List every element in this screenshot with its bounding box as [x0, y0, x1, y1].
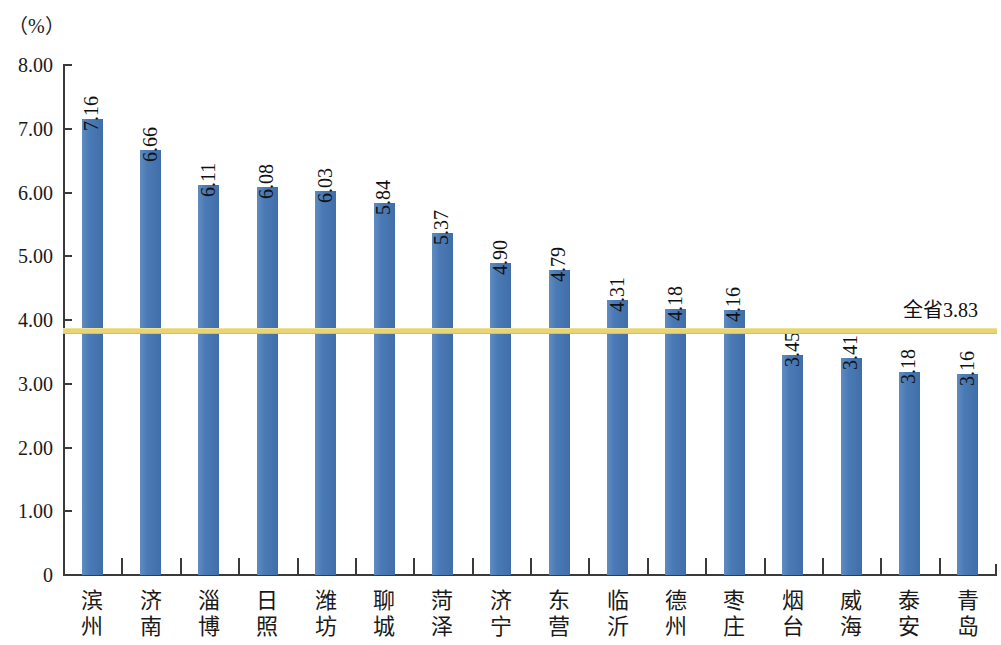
y-axis-tick — [63, 510, 72, 512]
category-label: 菏泽 — [429, 588, 455, 640]
category-label-char: 济 — [138, 588, 164, 614]
category-label-char: 坊 — [313, 614, 339, 640]
category-label-char: 博 — [196, 614, 222, 640]
x-axis-tick — [121, 558, 123, 575]
bar-value-label: 3.16 — [957, 351, 977, 386]
bar — [490, 263, 511, 575]
y-axis-tick-label: 2.00 — [0, 438, 53, 458]
y-axis-tick-label: 3.00 — [0, 374, 53, 394]
bar — [549, 270, 570, 575]
average-reference-label: 全省3.83 — [903, 300, 978, 320]
y-axis-tick-label: 8.00 — [0, 55, 53, 75]
y-axis-tick — [63, 128, 72, 130]
category-label: 临沂 — [605, 588, 631, 640]
category-label: 枣庄 — [721, 588, 747, 640]
category-label-char: 淄 — [196, 588, 222, 614]
category-label-char: 济 — [488, 588, 514, 614]
category-label: 潍坊 — [313, 588, 339, 640]
category-label-char: 安 — [896, 614, 922, 640]
category-label-char: 泰 — [896, 588, 922, 614]
bar-value-label: 6.03 — [315, 168, 335, 203]
x-axis-tick — [705, 558, 707, 575]
bar-value-label: 6.08 — [256, 164, 276, 199]
x-axis-tick — [880, 558, 882, 575]
category-label-char: 烟 — [780, 588, 806, 614]
bar — [315, 191, 336, 575]
category-label: 泰安 — [896, 588, 922, 640]
x-axis-tick — [530, 558, 532, 575]
category-label: 济宁 — [488, 588, 514, 640]
y-axis-tick — [63, 319, 72, 321]
category-label: 聊城 — [371, 588, 397, 640]
y-axis-tick-label: 7.00 — [0, 119, 53, 139]
unit-label: （%） — [8, 16, 65, 36]
category-label: 东营 — [546, 588, 572, 640]
average-reference-line — [63, 328, 997, 334]
category-label-char: 州 — [663, 614, 689, 640]
bar — [957, 374, 978, 575]
category-label-char: 德 — [663, 588, 689, 614]
category-label-char: 岛 — [955, 614, 981, 640]
bar — [432, 233, 453, 575]
bar — [665, 309, 686, 575]
y-axis-tick-label: 4.00 — [0, 310, 53, 330]
bar-value-label: 3.41 — [840, 335, 860, 370]
category-label-char: 泽 — [429, 614, 455, 640]
bar-value-label: 5.84 — [373, 180, 393, 215]
y-axis-tick-label: 1.00 — [0, 501, 53, 521]
bar-value-label: 3.45 — [782, 332, 802, 367]
x-axis-tick — [764, 558, 766, 575]
category-label-char: 海 — [838, 614, 864, 640]
category-label-char: 青 — [955, 588, 981, 614]
category-label-char: 庄 — [721, 614, 747, 640]
bar-value-label: 6.11 — [198, 163, 218, 197]
bar — [841, 358, 862, 575]
bar — [374, 203, 395, 575]
bar-value-label: 4.31 — [607, 277, 627, 312]
x-axis-tick — [238, 558, 240, 575]
category-label-char: 枣 — [721, 588, 747, 614]
bar-value-label: 4.90 — [490, 240, 510, 275]
y-axis-tick-label: 0 — [0, 565, 53, 585]
x-axis-tick — [647, 558, 649, 575]
x-axis-tick — [939, 558, 941, 575]
bar — [607, 300, 628, 575]
category-label: 德州 — [663, 588, 689, 640]
y-axis-tick — [63, 383, 72, 385]
bar-value-label: 4.16 — [723, 287, 743, 322]
y-axis-tick-label: 6.00 — [0, 183, 53, 203]
category-label: 威海 — [838, 588, 864, 640]
category-label: 烟台 — [780, 588, 806, 640]
x-axis-tick — [472, 558, 474, 575]
y-axis-tick — [63, 64, 72, 66]
y-axis-tick — [63, 255, 72, 257]
category-label-char: 东 — [546, 588, 572, 614]
bar — [82, 119, 103, 575]
category-label-char: 照 — [254, 614, 280, 640]
x-axis-tick — [822, 558, 824, 575]
x-axis-tick — [588, 558, 590, 575]
bar — [724, 310, 745, 575]
category-label-char: 菏 — [429, 588, 455, 614]
x-axis-tick — [180, 558, 182, 575]
category-label-char: 滨 — [79, 588, 105, 614]
category-label-char: 南 — [138, 614, 164, 640]
category-label: 滨州 — [79, 588, 105, 640]
y-axis-tick-label: 5.00 — [0, 246, 53, 266]
bar — [899, 372, 920, 575]
category-label-char: 城 — [371, 614, 397, 640]
category-label: 日照 — [254, 588, 280, 640]
bar — [140, 150, 161, 575]
category-label-char: 台 — [780, 614, 806, 640]
category-label-char: 宁 — [488, 614, 514, 640]
category-label: 淄博 — [196, 588, 222, 640]
x-axis-tick — [355, 558, 357, 575]
x-axis-right-cap — [995, 564, 997, 576]
bar — [782, 355, 803, 575]
bar-value-label: 6.66 — [140, 127, 160, 162]
category-label-char: 威 — [838, 588, 864, 614]
x-axis-tick — [297, 558, 299, 575]
category-label-char: 营 — [546, 614, 572, 640]
bar-value-label: 7.16 — [81, 96, 101, 131]
bar-chart: （%） 8.007.006.005.004.003.002.001.000 7.… — [0, 0, 1001, 645]
